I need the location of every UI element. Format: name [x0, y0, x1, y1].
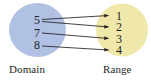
- domain-element-8: 8: [34, 38, 40, 52]
- range-label: Range: [103, 63, 132, 75]
- domain-label: Domain: [9, 63, 45, 75]
- mapping-diagram: 5 7 8 1 2 3 4 Domain Range: [0, 0, 151, 84]
- range-circle: [96, 4, 148, 57]
- range-element-4: 4: [116, 43, 122, 57]
